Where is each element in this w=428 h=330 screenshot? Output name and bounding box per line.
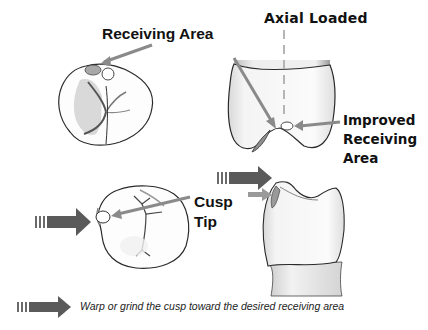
receiving-area-label: Receiving Area [102,25,213,43]
improved-label-line3: Area [343,149,417,168]
improved-receiving-area-label: Improved Receiving Area [343,111,417,168]
cusp-label-line1: Cusp [194,192,233,212]
axial-loaded-label: Axial Loaded [264,10,368,26]
improved-label-line1: Improved [343,111,417,130]
cusp-tip-label: Cusp Tip [194,192,233,232]
improved-label-line2: Receiving [343,130,417,149]
occlusal-tooth-top-left [59,64,153,145]
lateral-tooth-top-right [228,30,335,152]
arrow-to-receiving-area [100,45,152,66]
improved-receiving-area-ellipse [281,122,293,130]
cusp-label-line2: Tip [194,212,233,232]
occlusal-tooth-bottom-left [96,186,189,268]
lateral-tooth-bottom-right [263,182,344,296]
block-arrow-left [35,208,91,236]
cusp-tip-ellipse [96,211,110,223]
diagram-canvas: Receiving Area Axial Loaded Improved Rec… [0,0,428,330]
cusp-contact-circle [102,68,114,80]
legend-striped-arrow-icon [17,296,71,318]
receiving-area-ellipse [85,65,101,75]
block-arrow-right-top [217,166,272,190]
legend-description: Warp or grind the cusp toward the desire… [80,300,344,312]
